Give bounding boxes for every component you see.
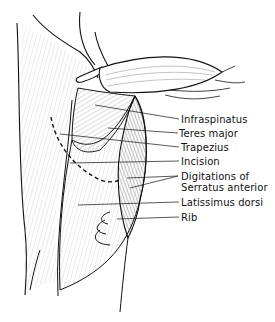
label-incision: Incision (181, 156, 220, 167)
label-serratus-anterior: Serratus anterior (181, 182, 268, 193)
label-digitations: Digitations of (181, 171, 249, 182)
deltoid (99, 57, 222, 93)
label-teres-major: Teres major (179, 128, 238, 139)
label-rib: Rib (181, 212, 197, 223)
anatomy-illustration (0, 0, 275, 322)
label-trapezius: Trapezius (181, 142, 229, 153)
label-latissimus-dorsi: Latissimus dorsi (181, 197, 263, 208)
label-infraspinatus: Infraspinatus (181, 114, 248, 125)
